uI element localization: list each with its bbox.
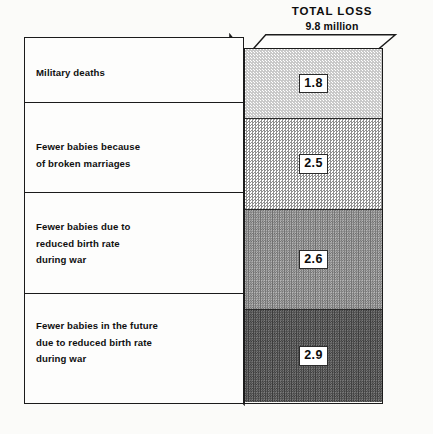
chart-header: TOTAL LOSS 9.8 million [252,5,412,32]
label-line: due to reduced birth rate [36,335,232,352]
chart-page: TOTAL LOSS 9.8 million Military deaths F… [0,0,433,434]
label-line: during war [36,351,232,368]
bar-value-label: 2.5 [299,154,327,174]
label-line: Fewer babies due to [36,219,232,236]
label-line: of broken marriages [36,156,232,173]
segment-label-broken-marriages: Fewer babies because of broken marriages [36,139,232,172]
frame-divider-2 [25,192,243,193]
label-line: Military deaths [36,65,232,82]
label-line: reduced birth rate [36,236,232,253]
label-line: Fewer babies in the future [36,318,232,335]
bar-value-label: 2.9 [299,346,327,366]
chart-subtitle: 9.8 million [252,20,412,32]
label-line: during war [36,252,232,269]
segment-label-military-deaths: Military deaths [36,65,232,82]
bar-segment-military-deaths[interactable]: 1.8 [245,49,382,118]
label-line: Fewer babies because [36,139,232,156]
bar-segment-broken-marriages[interactable]: 2.5 [245,118,382,209]
frame-divider-3 [25,293,243,294]
chart-title: TOTAL LOSS [252,5,412,19]
stacked-bar: 1.8 2.5 2.6 2.9 [244,48,383,404]
frame-divider-1 [25,102,243,103]
segment-label-reduced-birth-rate: Fewer babies due to reduced birth rate d… [36,219,232,269]
bar-value-label: 1.8 [299,74,327,94]
bar-value-label: 2.6 [299,250,327,270]
bar-segment-reduced-birth-rate[interactable]: 2.6 [245,209,382,309]
bar-segment-future-birth-rate[interactable]: 2.9 [245,309,382,402]
segment-label-future-birth-rate: Fewer babies in the future due to reduce… [36,318,232,368]
